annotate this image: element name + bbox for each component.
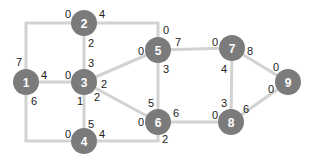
node-label: 7 xyxy=(229,42,236,56)
port-label: 4 xyxy=(99,128,105,140)
port-label: 3 xyxy=(163,63,169,75)
node-8[interactable]: 8 xyxy=(218,109,244,135)
port-label: 1 xyxy=(77,95,83,107)
port-label: 0 xyxy=(138,116,144,128)
port-label: 3 xyxy=(221,97,227,109)
port-label: 0 xyxy=(268,83,274,95)
node-label: 6 xyxy=(155,116,162,130)
port-label: 5 xyxy=(148,97,154,109)
node-label: 1 xyxy=(23,76,30,90)
port-label: 0 xyxy=(65,69,71,81)
node-label: 9 xyxy=(285,76,292,90)
port-label: 6 xyxy=(243,103,249,115)
port-label: 4 xyxy=(41,69,47,81)
port-label: 4 xyxy=(221,63,227,75)
node-2[interactable]: 2 xyxy=(71,10,97,36)
port-label: 0 xyxy=(163,24,169,36)
port-label: 3 xyxy=(88,57,94,69)
port-label: 2 xyxy=(88,37,94,49)
port-label: 0 xyxy=(65,128,71,140)
node-label: 5 xyxy=(155,44,162,58)
port-label: 0 xyxy=(273,61,279,73)
port-label: 7 xyxy=(175,36,181,48)
node-9[interactable]: 9 xyxy=(275,69,301,95)
node-1[interactable]: 1 xyxy=(13,69,39,95)
node-3[interactable]: 3 xyxy=(71,69,97,95)
node-label: 4 xyxy=(81,135,88,149)
port-label: 8 xyxy=(247,45,253,57)
node-7[interactable]: 7 xyxy=(219,35,245,61)
network-graph: 746042302215040073506208430600 123456789 xyxy=(0,0,316,163)
port-label: 0 xyxy=(138,45,144,57)
port-label: 0 xyxy=(65,8,71,20)
node-5[interactable]: 5 xyxy=(145,37,171,63)
node-4[interactable]: 4 xyxy=(71,128,97,154)
port-label: 4 xyxy=(99,8,105,20)
port-label: 2 xyxy=(162,133,168,145)
node-6[interactable]: 6 xyxy=(145,109,171,135)
node-label: 2 xyxy=(81,17,88,31)
port-label: 0 xyxy=(212,36,218,48)
port-label: 5 xyxy=(88,118,94,130)
port-label: 7 xyxy=(16,56,22,68)
port-label: 6 xyxy=(173,107,179,119)
port-label: 0 xyxy=(212,109,218,121)
port-label: 2 xyxy=(101,78,107,90)
node-label: 3 xyxy=(81,76,88,90)
port-label: 2 xyxy=(94,91,100,103)
node-label: 8 xyxy=(228,116,235,130)
port-label: 6 xyxy=(31,95,37,107)
